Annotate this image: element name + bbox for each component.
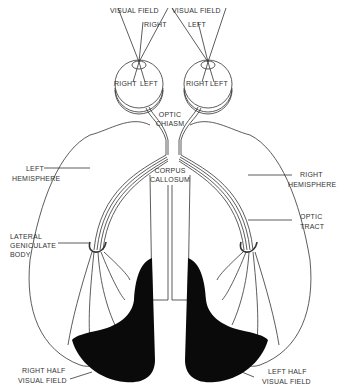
label-visual-field-2: VISUAL FIELD xyxy=(172,6,221,15)
label-optic-tract-1: OPTIC xyxy=(300,212,322,221)
corpus-callosum xyxy=(150,175,190,300)
label-right-hemisphere-2: HEMISPHERE xyxy=(288,180,336,189)
label-right-field: RIGHT xyxy=(144,20,167,29)
label-left-half-1: LEFT HALF xyxy=(268,367,307,376)
label-optic-chiasm-1: OPTIC xyxy=(150,110,190,119)
visual-field-rays xyxy=(118,8,226,82)
label-left-hemisphere-2: HEMISPHERE xyxy=(12,174,60,183)
label-eye1-left: LEFT xyxy=(140,79,158,88)
label-optic-tract-2: TRACT xyxy=(300,222,324,231)
label-eye1-right: RIGHT xyxy=(114,79,137,88)
label-visual-field-1: VISUAL FIELD xyxy=(110,6,159,15)
label-right-half-1: RIGHT HALF xyxy=(22,366,66,375)
label-lgb-1: LATERAL xyxy=(10,232,42,241)
label-corpus-callosum-2: CALLOSUM xyxy=(145,175,195,184)
label-left-hemisphere-1: LEFT xyxy=(26,164,44,173)
label-right-hemisphere-1: RIGHT xyxy=(300,170,323,179)
label-eye2-left: LEFT xyxy=(210,79,228,88)
label-lgb-2: GENICULATE xyxy=(10,241,56,250)
label-eye2-right: RIGHT xyxy=(186,79,209,88)
visual-pathway-diagram xyxy=(0,0,340,390)
label-right-half-2: VISUAL FIELD xyxy=(18,376,67,385)
label-left-field: LEFT xyxy=(188,20,206,29)
label-lgb-3: BODY xyxy=(10,250,31,259)
label-optic-chiasm-2: CHIASM xyxy=(150,119,190,128)
label-left-half-2: VISUAL FIELD xyxy=(262,377,311,386)
label-corpus-callosum-1: CORPUS xyxy=(145,166,195,175)
